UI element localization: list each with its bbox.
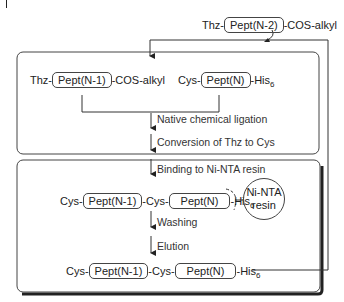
suffix: -COS-alkyl bbox=[112, 74, 165, 86]
suffix: -COS-alkyl bbox=[284, 19, 337, 31]
prefix: Cys- bbox=[66, 265, 89, 277]
peptide-segment-1: Pept(N-1) bbox=[89, 263, 149, 279]
prefix: Thz- bbox=[202, 19, 224, 31]
peptide-segment-1: Pept(N-1) bbox=[83, 193, 143, 209]
peptide-segment-2: Pept(N) bbox=[175, 263, 237, 279]
suffix: -His bbox=[236, 265, 256, 277]
linker: -Cys- bbox=[148, 265, 174, 277]
reactant-peptide-n1: Thz-Pept(N-1)-COS-alkyl bbox=[30, 72, 165, 88]
step-binding-resin: Binding to Ni-NTA resin bbox=[157, 163, 265, 175]
peptide-segment: Pept(N) bbox=[201, 72, 251, 88]
input-peptide-n2: Thz-Pept(N-2)-COS-alkyl bbox=[202, 17, 337, 33]
prefix: Cys- bbox=[60, 195, 83, 207]
step-elution: Elution bbox=[157, 240, 189, 252]
step-washing: Washing bbox=[157, 216, 197, 228]
subscript: 6 bbox=[270, 80, 274, 89]
peptide-segment-2: Pept(N) bbox=[169, 193, 231, 209]
prefix: Thz- bbox=[30, 74, 52, 86]
step-thz-to-cys: Conversion of Thz to Cys bbox=[157, 136, 275, 148]
ni-nta-resin-bead: Ni-NTA resin bbox=[243, 178, 285, 220]
resin-label-line2: resin bbox=[244, 199, 284, 212]
reactant-peptide-n: Cys-Pept(N)-His6 bbox=[178, 72, 275, 88]
prefix: Cys- bbox=[178, 74, 201, 86]
subscript: 6 bbox=[256, 271, 260, 280]
eluted-product: Cys-Pept(N-1)-Cys-Pept(N)-His6 bbox=[66, 263, 261, 279]
suffix: -His bbox=[251, 74, 271, 86]
bound-product: Cys-Pept(N-1)-Cys-Pept(N)-His6 bbox=[60, 193, 255, 209]
peptide-segment: Pept(N-1) bbox=[52, 72, 112, 88]
diagram-lines bbox=[0, 0, 344, 302]
resin-label-line1: Ni-NTA bbox=[244, 186, 284, 199]
step-native-chemical-ligation: Native chemical ligation bbox=[157, 113, 267, 125]
peptide-segment: Pept(N-2) bbox=[224, 17, 284, 33]
linker: -Cys- bbox=[142, 195, 168, 207]
